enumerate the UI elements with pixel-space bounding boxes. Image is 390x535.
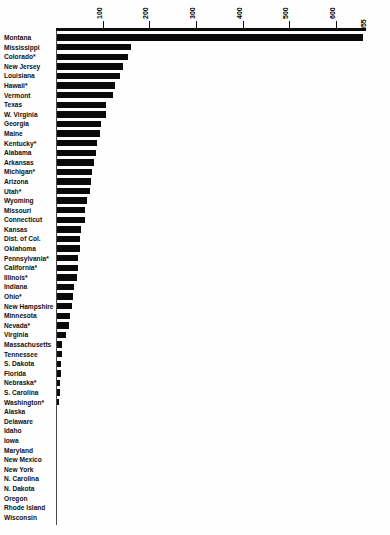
bar-virginia <box>57 332 66 338</box>
bar-row: Kansas <box>0 225 390 235</box>
bar-label-delaware: Delaware <box>4 417 154 427</box>
bar-row: Indiana <box>0 282 390 292</box>
bar-row: New Hampshire <box>0 302 390 312</box>
bar-minnesota <box>57 313 70 319</box>
bar-kentucky <box>57 140 97 146</box>
bar-label-ohio: Ohio* <box>4 292 154 302</box>
bar-row: Florida <box>0 369 390 379</box>
bar-label-tennessee: Tennessee <box>4 350 154 360</box>
bar-montana <box>57 34 363 40</box>
bar-arkansas <box>57 159 94 165</box>
bar-maine <box>57 130 100 136</box>
bar-label-n-carolina: N. Carolina <box>4 474 154 484</box>
bar-arizona <box>57 178 91 184</box>
bar-row: Alabama <box>0 148 390 158</box>
bar-label-maryland: Maryland <box>4 446 154 456</box>
bar-label-california: California* <box>4 263 154 273</box>
bar-label-alaska: Alaska <box>4 407 154 417</box>
bar-row: New Jersey <box>0 62 390 72</box>
bar-row: Oklahoma <box>0 244 390 254</box>
bar-row: Nebraska* <box>0 378 390 388</box>
bar-row: Oregon <box>0 494 390 504</box>
axis-tick-label-400: 400 <box>236 7 243 19</box>
bar-row: Connecticut <box>0 215 390 225</box>
bar-row: Washington* <box>0 398 390 408</box>
bar-connecticut <box>57 217 85 223</box>
bar-label-new-hampshire: New Hampshire <box>4 302 154 312</box>
axis-tick-label-600: 600 <box>329 7 336 19</box>
bar-georgia <box>57 121 101 127</box>
axis-tick-label-200: 200 <box>142 7 149 19</box>
bar-row: Wisconsin <box>0 513 390 523</box>
bar-row: Missouri <box>0 206 390 216</box>
bar-row: Tennessee <box>0 350 390 360</box>
bar-label-illinois: Illinois* <box>4 273 154 283</box>
bar-row: Montana <box>0 33 390 43</box>
axis-tick-300: 300 <box>196 21 197 28</box>
bar-row: Wyoming <box>0 196 390 206</box>
bar-row: Texas <box>0 100 390 110</box>
axis-tick-400: 400 <box>243 21 244 28</box>
bar-alabama <box>57 150 96 156</box>
bar-label-n-dakota: N. Dakota <box>4 484 154 494</box>
bar-row: Alaska <box>0 407 390 417</box>
bar-new-jersey <box>57 63 123 69</box>
bar-label-new-mexico: New Mexico <box>4 455 154 465</box>
bar-california <box>57 265 78 271</box>
bar-label-indiana: Indiana <box>4 282 154 292</box>
bar-label-minnesota: Minnesota <box>4 311 154 321</box>
bar-washington <box>57 399 59 405</box>
bar-oklahoma <box>57 245 80 251</box>
bar-texas <box>57 102 106 108</box>
bar-row: N. Carolina <box>0 474 390 484</box>
bar-dist-of-col <box>57 236 80 242</box>
bar-massachusetts <box>57 341 62 347</box>
bar-row: Dist. of Col. <box>0 234 390 244</box>
bar-wyoming <box>57 197 87 203</box>
bar-row: Minnesota <box>0 311 390 321</box>
axis-tick-label-100: 100 <box>96 7 103 19</box>
bar-row: Hawaii* <box>0 81 390 91</box>
bar-row: N. Dakota <box>0 484 390 494</box>
bar-row: Louisiana <box>0 71 390 81</box>
bar-row: Arizona <box>0 177 390 187</box>
bar-row: W. Virginia <box>0 110 390 120</box>
axis-tick-100: 100 <box>103 21 104 28</box>
bar-label-idaho: Idaho <box>4 426 154 436</box>
bar-label-rhode-island: Rhode Island <box>4 503 154 513</box>
bar-chart: 100200300400500600 955 MontanaMississipp… <box>0 0 390 535</box>
bar-row: Ohio* <box>0 292 390 302</box>
bar-florida <box>57 370 61 376</box>
bar-s-dakota <box>57 361 61 367</box>
bar-s-carolina <box>57 389 60 395</box>
bar-label-oregon: Oregon <box>4 494 154 504</box>
bar-label-new-york: New York <box>4 465 154 475</box>
bar-label-wisconsin: Wisconsin <box>4 513 154 523</box>
bar-colorado <box>57 54 128 60</box>
bar-label-florida: Florida <box>4 369 154 379</box>
montana-value-label: 955 <box>360 19 367 31</box>
bar-missouri <box>57 207 85 213</box>
value-axis-line: 100200300400500600 <box>56 28 363 31</box>
bar-row: Georgia <box>0 119 390 129</box>
bar-row: Iowa <box>0 436 390 446</box>
bar-row: Virginia <box>0 330 390 340</box>
axis-tick-label-300: 300 <box>189 7 196 19</box>
bar-label-s-carolina: S. Carolina <box>4 388 154 398</box>
bar-vermont <box>57 92 113 98</box>
bar-tennessee <box>57 351 62 357</box>
bar-pennsylvania <box>57 255 78 261</box>
bar-row: Maine <box>0 129 390 139</box>
bar-indiana <box>57 284 74 290</box>
bar-row: Illinois* <box>0 273 390 283</box>
axis-tick-200: 200 <box>149 21 150 28</box>
bar-row: New York <box>0 465 390 475</box>
bar-mississippi <box>57 44 131 50</box>
bar-row: Pennsylvania* <box>0 254 390 264</box>
bar-row: Maryland <box>0 446 390 456</box>
bar-w-virginia <box>57 111 106 117</box>
bar-row: California* <box>0 263 390 273</box>
bar-utah <box>57 188 90 194</box>
bar-kansas <box>57 226 81 232</box>
bar-label-washington: Washington* <box>4 398 154 408</box>
